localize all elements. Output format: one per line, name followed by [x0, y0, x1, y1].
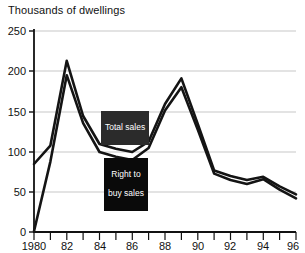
chart-container: Thousands of dwellings: [0, 0, 305, 253]
annotation-label-right-to-buy-sales: Right to buy sales: [104, 158, 148, 211]
y-tick-label-250: 250: [0, 25, 26, 37]
series-line-total-sales: [34, 61, 296, 195]
chart-plot-area: [0, 0, 305, 253]
series-line-right-to-buy-sales: [34, 75, 296, 231]
annotation-label-total-sales: Total sales: [101, 111, 149, 145]
x-tick-label-82: 82: [53, 240, 81, 252]
x-axis: [34, 232, 296, 240]
annotation-rtb-line-2: buy sales: [108, 189, 144, 199]
y-tick-label-200: 200: [0, 65, 26, 77]
annotation-rtb-line-1: Right to: [108, 170, 144, 180]
y-tick-label-0: 0: [0, 226, 26, 238]
y-axis: [29, 29, 34, 233]
y-tick-label-150: 150: [0, 106, 26, 118]
x-tick-label-86: 86: [118, 240, 146, 252]
x-tick-label-90: 90: [184, 240, 212, 252]
x-tick-label-84: 84: [86, 240, 114, 252]
x-tick-label-88: 88: [151, 240, 179, 252]
x-tick-label-92: 92: [216, 240, 244, 252]
x-tick-label-94: 94: [249, 240, 277, 252]
y-tick-label-50: 50: [0, 186, 26, 198]
annotation-total-sales-text: Total sales: [105, 123, 145, 133]
x-tick-label-96: 96: [282, 240, 304, 252]
y-tick-label-100: 100: [0, 146, 26, 158]
x-tick-label-1980: 1980: [18, 240, 50, 252]
